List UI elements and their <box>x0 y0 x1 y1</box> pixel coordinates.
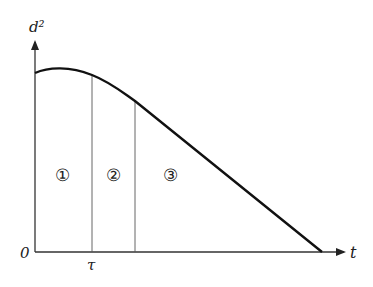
region-1-label: ① <box>55 165 70 185</box>
y-axis-label: d² <box>29 18 45 36</box>
d-squared-curve <box>35 68 322 252</box>
region-2-label: ② <box>106 165 121 185</box>
origin-label: 0 <box>20 244 30 262</box>
region-3-label: ③ <box>163 165 178 185</box>
x-axis-label: t <box>350 243 357 262</box>
diagram: d² t 0 τ ① ② ③ <box>0 0 373 287</box>
tau-label: τ <box>87 256 96 274</box>
